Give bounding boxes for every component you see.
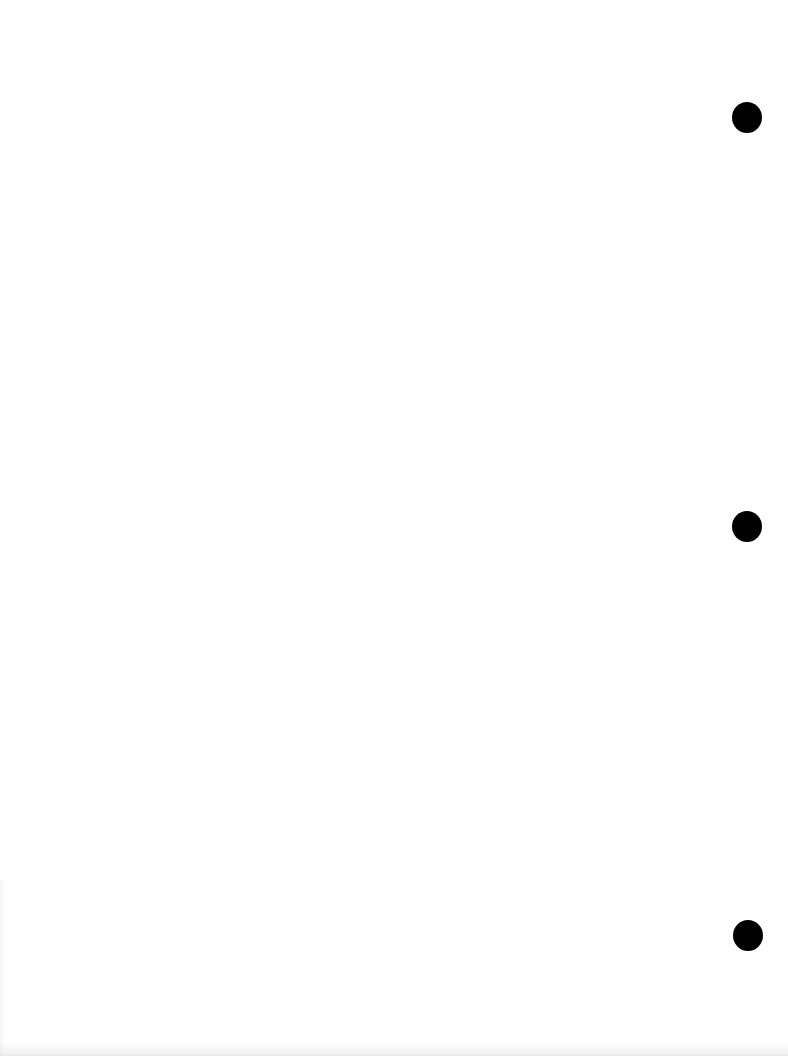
punch-hole-middle [732,511,762,542]
blank-document-page [0,0,788,1056]
punch-hole-bottom [733,920,763,951]
punch-hole-top [732,102,762,133]
scan-edge-shadow-bottom [0,1042,788,1056]
scan-edge-shadow-left [0,880,6,1056]
